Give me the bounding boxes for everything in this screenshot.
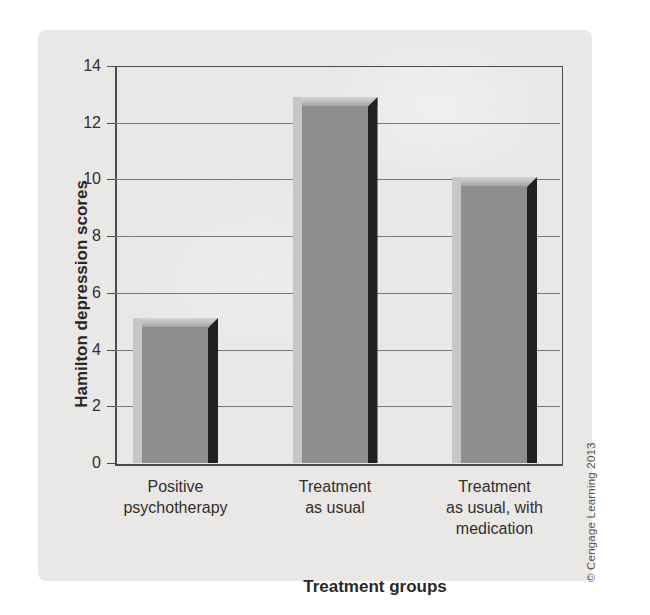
bar-top-bevel (293, 97, 378, 106)
bar-face (461, 186, 527, 463)
x-axis-title: Treatment groups (235, 577, 515, 597)
x-category-label-line: medication (415, 518, 575, 539)
x-category-label-line: Treatment (415, 476, 575, 497)
bar-face (302, 106, 368, 463)
x-category-label-treatment-as-usual-with-medication: Treatmentas usual, withmedication (415, 476, 575, 539)
copyright-credit: © Cengage Learning 2013 (585, 366, 601, 582)
bar-left-highlight (452, 177, 461, 463)
bar-top-bevel (133, 318, 218, 327)
y-tick-mark-8 (107, 236, 115, 237)
bar-positive-psychotherapy (133, 318, 218, 463)
y-tick-label-2: 2 (53, 397, 101, 415)
y-tick-mark-12 (107, 123, 115, 124)
bar-right-shadow (368, 97, 378, 463)
bar-right-shadow (527, 177, 537, 463)
bar-top-bevel (452, 177, 537, 186)
y-tick-mark-2 (107, 406, 115, 407)
bar-right-shadow (208, 318, 218, 463)
y-tick-label-10: 10 (53, 170, 101, 188)
y-tick-mark-10 (107, 179, 115, 180)
y-tick-label-8: 8 (53, 227, 101, 245)
y-tick-label-0: 0 (53, 454, 101, 472)
bar-left-highlight (293, 97, 302, 463)
x-category-label-line: psychotherapy (96, 497, 256, 518)
x-category-label-line: Positive (96, 476, 256, 497)
x-category-label-positive-psychotherapy: Positivepsychotherapy (96, 476, 256, 518)
y-tick-label-6: 6 (53, 284, 101, 302)
y-tick-label-12: 12 (53, 114, 101, 132)
bar-left-highlight (133, 318, 142, 463)
y-tick-mark-4 (107, 350, 115, 351)
y-tick-label-4: 4 (53, 341, 101, 359)
x-category-label-treatment-as-usual: Treatmentas usual (255, 476, 415, 518)
bar-treatment-as-usual-with-medication (452, 177, 537, 463)
y-tick-mark-6 (107, 293, 115, 294)
x-category-label-line: as usual (255, 497, 415, 518)
bar-treatment-as-usual (293, 97, 378, 463)
y-tick-label-14: 14 (53, 57, 101, 75)
y-tick-mark-0 (107, 463, 115, 464)
bar-face (142, 327, 208, 463)
x-category-label-line: Treatment (255, 476, 415, 497)
x-category-label-line: as usual, with (415, 497, 575, 518)
y-tick-mark-14 (107, 66, 115, 67)
